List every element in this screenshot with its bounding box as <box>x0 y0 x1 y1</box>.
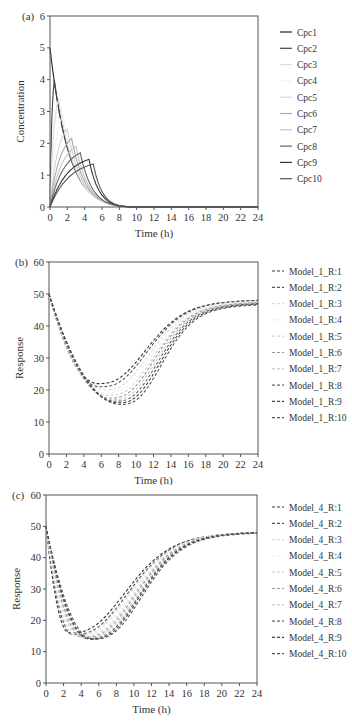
legend-item-label: Model_1_R:8 <box>289 381 342 391</box>
x-tick-label: 10 <box>131 212 142 223</box>
y-tick-label: 50 <box>34 289 45 300</box>
x-tick-label: 4 <box>81 459 87 470</box>
panel-c-model4-response-chart: 0246810121416182022240102030405060(c)Tim… <box>0 485 352 724</box>
legend-item-label: Cpc6 <box>297 109 317 119</box>
legend-item-label: Model_4_R:5 <box>289 568 342 578</box>
x-tick-label: 0 <box>46 459 51 470</box>
y-tick-label: 10 <box>31 646 42 657</box>
y-tick-label: 6 <box>40 11 45 22</box>
x-tick-label: 16 <box>181 688 192 699</box>
y-tick-label: 60 <box>31 490 42 501</box>
legend-item-label: Cpc5 <box>297 93 317 103</box>
series-line-model-4-r-10 <box>46 526 257 639</box>
x-tick-label: 12 <box>149 212 160 223</box>
series-line-model-4-r-3 <box>46 526 257 635</box>
legend-item-label: Model_1_R:3 <box>289 299 342 309</box>
legend-item-label: Cpc7 <box>297 125 317 135</box>
x-tick-label: 24 <box>253 212 264 223</box>
legend-item-label: Cpc3 <box>297 60 317 70</box>
series-line-model-1-r-3 <box>49 294 258 390</box>
plot-frame <box>46 495 257 683</box>
legend-item-label: Model_4_R:7 <box>289 600 342 610</box>
legend-item-label: Cpc4 <box>297 76 317 86</box>
series-line-cpc10 <box>50 164 258 207</box>
x-tick-label: 0 <box>43 688 48 699</box>
series-line-model-1-r-7 <box>49 294 258 400</box>
y-tick-label: 4 <box>40 74 46 85</box>
x-tick-label: 24 <box>252 688 263 699</box>
panel-a-concentration-chart: 0246810121416182022240123456(a)Time (h)C… <box>0 0 352 245</box>
legend-item-label: Model_1_R:7 <box>289 364 342 374</box>
legend: Model_4_R:1Model_4_R:2Model_4_R:3Model_4… <box>272 503 347 660</box>
x-tick-label: 10 <box>131 459 142 470</box>
legend-item-label: Model_1_R:10 <box>289 413 347 423</box>
y-tick-label: 0 <box>36 678 41 689</box>
y-tick-label: 2 <box>40 138 45 149</box>
x-tick-label: 22 <box>235 459 246 470</box>
series-group <box>49 294 258 404</box>
legend-item-label: Cpc10 <box>297 174 322 184</box>
x-tick-label: 14 <box>166 459 177 470</box>
x-tick-label: 8 <box>116 459 121 470</box>
x-tick-label: 22 <box>235 212 246 223</box>
legend-item-label: Cpc8 <box>297 142 317 152</box>
series-line-model-1-r-5 <box>49 294 258 395</box>
x-tick-label: 8 <box>114 688 119 699</box>
x-tick-label: 0 <box>47 212 52 223</box>
x-tick-label: 16 <box>183 459 194 470</box>
plot-frame <box>49 262 258 454</box>
legend-item-label: Model_4_R:2 <box>289 519 342 529</box>
x-axis-title: Time (h) <box>132 703 171 716</box>
series-group <box>46 526 257 639</box>
legend: Model_1_R:1Model_1_R:2Model_1_R:3Model_1… <box>272 267 347 424</box>
x-tick-label: 20 <box>218 212 229 223</box>
x-tick-label: 18 <box>201 212 212 223</box>
x-tick-label: 20 <box>217 688 228 699</box>
legend-item-label: Model_1_R:1 <box>289 267 342 277</box>
chart-svg-a: 0246810121416182022240123456(a)Time (h)C… <box>0 0 352 245</box>
legend-item-label: Model_4_R:3 <box>289 535 342 545</box>
y-tick-label: 60 <box>34 257 45 268</box>
x-axis-title: Time (h) <box>135 227 174 240</box>
y-axis-title: Concentration <box>14 80 26 143</box>
series-line-cpc1 <box>50 48 258 207</box>
y-tick-label: 30 <box>34 353 45 364</box>
legend-item-label: Model_4_R:4 <box>289 551 342 561</box>
series-line-model-4-r-1 <box>46 526 257 633</box>
x-tick-label: 2 <box>64 459 69 470</box>
series-line-model-1-r-6 <box>49 294 258 398</box>
x-tick-label: 4 <box>82 212 88 223</box>
legend-item-label: Model_4_R:10 <box>289 649 347 659</box>
series-line-cpc2 <box>50 80 258 207</box>
x-tick-label: 10 <box>129 688 140 699</box>
x-tick-label: 12 <box>148 459 159 470</box>
series-line-model-1-r-8 <box>49 294 258 401</box>
legend-item-label: Model_4_R:9 <box>289 633 342 643</box>
legend-item-label: Model_4_R:1 <box>289 503 342 513</box>
panel-b-model1-response-chart: 0246810121416182022240102030405060(b)Tim… <box>0 245 352 485</box>
series-line-model-4-r-2 <box>46 526 257 634</box>
y-tick-label: 0 <box>39 449 44 460</box>
legend-item-label: Model_1_R:6 <box>289 348 342 358</box>
series-line-model-4-r-4 <box>46 526 257 636</box>
x-tick-label: 18 <box>199 688 210 699</box>
y-tick-label: 3 <box>40 106 45 117</box>
x-tick-label: 2 <box>61 688 66 699</box>
x-tick-label: 18 <box>201 459 212 470</box>
x-tick-label: 4 <box>79 688 85 699</box>
x-tick-label: 14 <box>164 688 175 699</box>
series-line-model-1-r-9 <box>49 294 258 403</box>
legend-item-label: Model_1_R:4 <box>289 315 342 325</box>
panel-label: (b) <box>15 256 28 269</box>
legend-item-label: Cpc9 <box>297 158 317 168</box>
x-tick-label: 12 <box>146 688 157 699</box>
y-axis-title: Response <box>13 337 25 379</box>
legend: Cpc1Cpc2Cpc3Cpc4Cpc5Cpc6Cpc7Cpc8Cpc9Cpc1… <box>280 28 322 185</box>
y-tick-label: 1 <box>40 170 45 181</box>
y-tick-label: 40 <box>31 552 42 563</box>
panel-label: (a) <box>22 10 35 23</box>
y-tick-label: 0 <box>40 202 45 213</box>
series-line-cpc4 <box>50 115 258 207</box>
legend-item-label: Model_4_R:8 <box>289 617 342 627</box>
series-line-cpc6 <box>50 139 258 207</box>
